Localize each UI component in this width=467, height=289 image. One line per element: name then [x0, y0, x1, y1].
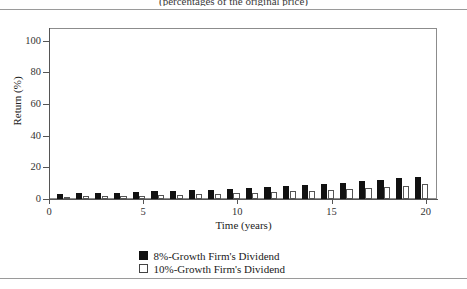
bar-white-10pct	[271, 192, 277, 199]
bar-white-10pct	[83, 196, 89, 199]
bar-black-8pct	[76, 193, 82, 199]
x-axis-tick	[237, 199, 238, 204]
y-axis-tick	[43, 167, 49, 168]
y-axis-title: Return (%)	[11, 56, 23, 146]
bar-white-10pct	[139, 196, 145, 199]
y-axis-tick	[43, 41, 49, 42]
legend-item: 10%-Growth Firm's Dividend	[139, 263, 329, 275]
bar-white-10pct	[196, 194, 202, 199]
bar-black-8pct	[227, 189, 233, 199]
bar-white-10pct	[215, 194, 221, 199]
bar-white-10pct	[64, 197, 70, 199]
bar-black-8pct	[208, 190, 214, 200]
x-axis-tick	[332, 199, 333, 204]
legend-label: 8%-Growth Firm's Dividend	[154, 250, 280, 262]
x-axis-tick	[143, 199, 144, 204]
bar-black-8pct	[95, 193, 101, 199]
chart-page: (percentages of the original price) 0204…	[0, 0, 467, 289]
bar-black-8pct	[264, 187, 270, 199]
bar-white-10pct	[177, 195, 183, 199]
bar-white-10pct	[252, 193, 258, 199]
bar-white-10pct	[290, 191, 296, 199]
y-axis-tick	[43, 136, 49, 137]
bar-white-10pct	[233, 193, 239, 199]
bar-black-8pct	[151, 191, 157, 199]
y-axis-tick	[43, 72, 49, 73]
bar-white-10pct	[102, 196, 108, 199]
bar-white-10pct	[328, 190, 334, 199]
bar-series-container	[50, 28, 437, 199]
bar-white-10pct	[158, 195, 164, 199]
bar-black-8pct	[340, 183, 346, 199]
legend-swatch-white-icon	[139, 264, 148, 273]
x-axis-tick-label: 15	[312, 206, 352, 217]
chart-caption: (percentages of the original price)	[0, 0, 467, 6]
bar-white-10pct	[365, 188, 371, 199]
bar-white-10pct	[120, 196, 126, 199]
bar-black-8pct	[246, 188, 252, 199]
legend-row: 10%-Growth Firm's Dividend	[0, 262, 467, 275]
bar-white-10pct	[403, 186, 409, 199]
x-axis-line	[49, 199, 438, 200]
bar-white-10pct	[346, 189, 352, 199]
bar-white-10pct	[422, 184, 428, 199]
bar-black-8pct	[396, 178, 402, 199]
legend-swatch-black-icon	[139, 251, 148, 260]
x-axis-title: Time (years)	[49, 219, 438, 231]
bar-black-8pct	[321, 184, 327, 199]
bar-black-8pct	[57, 194, 63, 199]
top-divider	[0, 9, 467, 10]
bottom-divider	[0, 278, 467, 279]
legend-label: 10%-Growth Firm's Dividend	[154, 263, 286, 275]
y-axis-tick-label: 100	[0, 36, 41, 46]
bar-black-8pct	[302, 185, 308, 199]
bar-black-8pct	[283, 186, 289, 199]
y-axis-tick-label: 20	[0, 162, 41, 172]
x-axis-tick-label: 10	[217, 206, 257, 217]
x-axis-tick	[49, 199, 50, 204]
bar-black-8pct	[415, 177, 421, 199]
legend-row: 8%-Growth Firm's Dividend	[0, 249, 467, 262]
chart-legend: 8%-Growth Firm's Dividend10%-Growth Firm…	[0, 249, 467, 275]
bar-black-8pct	[359, 181, 365, 199]
bar-black-8pct	[170, 191, 176, 199]
bar-black-8pct	[377, 180, 383, 199]
legend-item: 8%-Growth Firm's Dividend	[139, 250, 329, 262]
x-axis-tick-label: 5	[123, 206, 163, 217]
bar-black-8pct	[133, 192, 139, 199]
x-axis-tick	[426, 199, 427, 204]
y-axis-tick-label: 0	[0, 194, 41, 204]
bar-black-8pct	[189, 190, 195, 199]
y-axis-tick	[43, 104, 49, 105]
x-axis-tick-label: 20	[406, 206, 446, 217]
bar-white-10pct	[309, 191, 315, 199]
bar-black-8pct	[114, 193, 120, 199]
x-axis-tick-label: 0	[29, 206, 69, 217]
bar-white-10pct	[384, 187, 390, 199]
